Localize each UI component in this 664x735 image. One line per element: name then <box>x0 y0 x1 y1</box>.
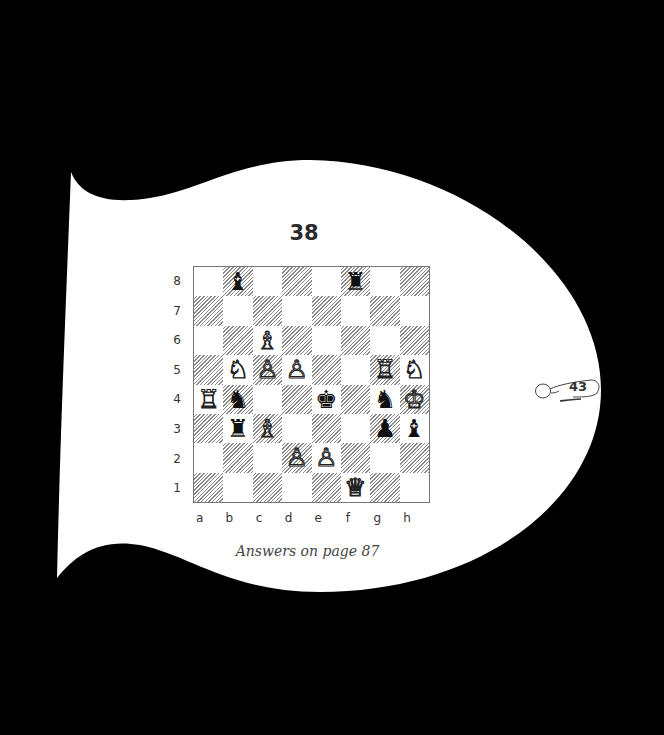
square-g6 <box>370 326 399 355</box>
file-label-c: c <box>244 511 274 525</box>
rank-label-5: 5 <box>170 363 184 377</box>
square-f7 <box>341 296 370 325</box>
square-b6 <box>223 326 252 355</box>
black-rook-icon: ♜ <box>344 269 366 294</box>
white-rook-icon: ♖ <box>374 357 396 382</box>
square-g2 <box>370 443 399 472</box>
square-d7 <box>282 296 311 325</box>
square-b5: ♘ <box>223 355 252 384</box>
square-d4 <box>282 385 311 414</box>
square-e6 <box>312 326 341 355</box>
white-pawn-icon: ♙ <box>286 445 308 470</box>
black-pawn-icon: ♟ <box>374 416 396 441</box>
square-f8: ♜ <box>341 267 370 296</box>
black-bishop-icon: ♝ <box>403 416 425 441</box>
square-a1 <box>194 473 223 502</box>
file-label-e: e <box>303 511 333 525</box>
square-d8 <box>282 267 311 296</box>
square-b3: ♜ <box>223 414 252 443</box>
square-f2 <box>341 443 370 472</box>
square-f1: ♕ <box>341 473 370 502</box>
square-e2: ♙ <box>312 443 341 472</box>
square-b1 <box>223 473 252 502</box>
square-f5 <box>341 355 370 384</box>
square-c5: ♙ <box>253 355 282 384</box>
square-b4: ♞ <box>223 385 252 414</box>
file-label-f: f <box>333 511 363 525</box>
white-pawn-icon: ♙ <box>286 357 308 382</box>
square-a7 <box>194 296 223 325</box>
square-e8 <box>312 267 341 296</box>
rank-label-8: 8 <box>170 274 184 288</box>
white-rook-icon: ♖ <box>197 387 219 412</box>
square-d3 <box>282 414 311 443</box>
black-bishop-icon: ♝ <box>227 269 249 294</box>
square-a2 <box>194 443 223 472</box>
square-g4: ♞ <box>370 385 399 414</box>
file-label-d: d <box>274 511 304 525</box>
square-b7 <box>223 296 252 325</box>
square-h5: ♘ <box>400 355 429 384</box>
rank-label-7: 7 <box>170 304 184 318</box>
black-king-icon: ♚ <box>315 387 337 412</box>
page-number: 43 <box>569 379 587 394</box>
square-h2 <box>400 443 429 472</box>
page-number-tag-icon <box>533 375 603 405</box>
white-pawn-icon: ♙ <box>315 445 337 470</box>
square-e7 <box>312 296 341 325</box>
file-label-g: g <box>363 511 393 525</box>
rank-label-3: 3 <box>170 422 184 436</box>
black-knight-icon: ♞ <box>227 387 249 412</box>
square-c6: ♗ <box>253 326 282 355</box>
square-h6 <box>400 326 429 355</box>
rank-label-6: 6 <box>170 333 184 347</box>
square-e3 <box>312 414 341 443</box>
square-c1 <box>253 473 282 502</box>
square-e1 <box>312 473 341 502</box>
square-g3: ♟ <box>370 414 399 443</box>
square-g5: ♖ <box>370 355 399 384</box>
square-b2 <box>223 443 252 472</box>
rank-label-1: 1 <box>170 481 184 495</box>
square-f4 <box>341 385 370 414</box>
square-h4: ♔ <box>400 385 429 414</box>
black-rook-icon: ♜ <box>227 416 249 441</box>
black-knight-icon: ♞ <box>374 387 396 412</box>
white-knight-icon: ♘ <box>227 357 249 382</box>
square-a8 <box>194 267 223 296</box>
square-d6 <box>282 326 311 355</box>
square-a6 <box>194 326 223 355</box>
white-bishop-icon: ♗ <box>256 328 278 353</box>
square-c7 <box>253 296 282 325</box>
square-e4: ♚ <box>312 385 341 414</box>
file-label-h: h <box>392 511 422 525</box>
square-c8 <box>253 267 282 296</box>
square-f6 <box>341 326 370 355</box>
square-a5 <box>194 355 223 384</box>
square-h8 <box>400 267 429 296</box>
white-queen-icon: ♕ <box>344 475 366 500</box>
square-b8: ♝ <box>223 267 252 296</box>
white-bishop-icon: ♗ <box>256 416 278 441</box>
square-g1 <box>370 473 399 502</box>
square-f3 <box>341 414 370 443</box>
square-h3: ♝ <box>400 414 429 443</box>
square-a4: ♖ <box>194 385 223 414</box>
white-knight-icon: ♘ <box>403 357 425 382</box>
square-d5: ♙ <box>282 355 311 384</box>
square-h7 <box>400 296 429 325</box>
square-a3 <box>194 414 223 443</box>
square-d1 <box>282 473 311 502</box>
rank-label-2: 2 <box>170 452 184 466</box>
file-label-b: b <box>215 511 245 525</box>
square-h1 <box>400 473 429 502</box>
rank-label-4: 4 <box>170 392 184 406</box>
white-king-icon: ♔ <box>403 387 425 412</box>
square-c3: ♗ <box>253 414 282 443</box>
puzzle-number: 38 <box>268 221 340 245</box>
square-e5 <box>312 355 341 384</box>
chess-board: ♝♜♗♘♙♙♖♘♖♞♚♞♔♜♗♟♝♙♙♕ <box>193 266 430 503</box>
answers-caption: Answers on page 87 <box>200 543 415 559</box>
file-label-a: a <box>185 511 215 525</box>
square-c4 <box>253 385 282 414</box>
